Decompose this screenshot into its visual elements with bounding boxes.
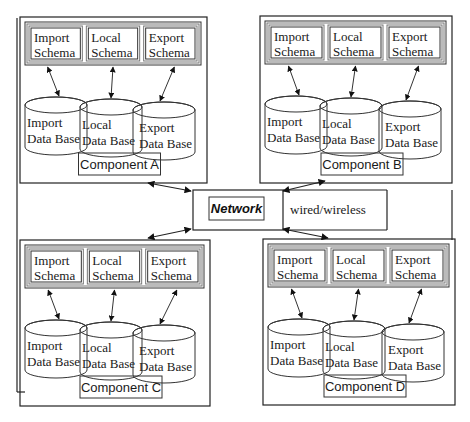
database-local: LocalData Base [320, 98, 382, 156]
network-label: Network [211, 201, 263, 216]
schema-import: ImportSchema [272, 248, 327, 283]
schema-db-link-arrow [289, 66, 300, 95]
component-a: ImportSchemaLocalSchemaExportSchemaImpor… [20, 17, 207, 183]
database-label-line1: Local [322, 116, 352, 131]
schema-label-line1: Export [392, 29, 428, 44]
database-local: LocalData Base [323, 321, 385, 379]
schema-label-line1: Import [34, 253, 70, 268]
schema-import: ImportSchema [29, 26, 82, 61]
schema-export: ExportSchema [146, 249, 200, 284]
database-cylinder-top [320, 98, 382, 114]
schema-local: LocalSchema [328, 25, 383, 60]
database-import: ImportData Base [25, 320, 87, 378]
schema-label-line1: Import [277, 252, 313, 267]
component-label: Component A [80, 157, 159, 172]
schema-label-line1: Local [92, 253, 122, 268]
link-component-c [148, 229, 191, 238]
component-label: Component B [322, 157, 402, 172]
federated-database-diagram: ImportSchemaLocalSchemaExportSchemaImpor… [0, 0, 470, 422]
database-import: ImportData Base [265, 96, 327, 154]
schema-db-link-arrow [111, 290, 115, 321]
schema-label-line2: Schema [34, 268, 75, 283]
database-export: ExportData Base [382, 324, 444, 382]
database-label-line1: Local [82, 340, 112, 355]
database-label-line2: Data Base [322, 132, 375, 147]
schema-label-line1: Import [274, 29, 310, 44]
schema-export: ExportSchema [390, 248, 445, 283]
schema-label-line2: Schema [274, 44, 315, 59]
schema-db-link-arrow [351, 66, 356, 97]
component-c: ImportSchemaLocalSchemaExportSchemaImpor… [20, 240, 210, 406]
database-label-line2: Data Base [325, 355, 378, 370]
schema-label-line1: Local [333, 29, 363, 44]
database-import: ImportData Base [268, 319, 330, 377]
component-label: Component D [325, 379, 405, 394]
component-b: ImportSchemaLocalSchemaExportSchemaImpor… [260, 16, 452, 183]
schema-label-line1: Import [34, 30, 70, 45]
schema-label-line2: Schema [91, 45, 132, 60]
schema-db-link-arrow [48, 290, 59, 319]
schema-db-link-arrow [409, 289, 422, 323]
schema-db-link-arrow [160, 67, 174, 101]
component-d: ImportSchemaLocalSchemaExportSchemaImpor… [263, 239, 455, 405]
database-label-line1: Import [267, 114, 303, 129]
database-label-line2: Data Base [385, 135, 438, 150]
schema-label-line2: Schema [151, 268, 192, 283]
database-label-line1: Import [27, 115, 63, 130]
schema-label-line2: Schema [336, 267, 377, 282]
schema-label-line2: Schema [92, 268, 133, 283]
schema-label-line2: Schema [277, 267, 318, 282]
database-label-line2: Data Base [82, 356, 135, 371]
schema-label-line1: Local [91, 30, 121, 45]
schema-db-link-arrow [354, 289, 359, 320]
database-label-line2: Data Base [27, 354, 80, 369]
schema-label-line1: Local [336, 252, 366, 267]
database-label-line2: Data Base [82, 133, 135, 148]
database-export: ExportData Base [379, 101, 441, 159]
schema-db-link-arrow [160, 290, 177, 324]
database-label-line2: Data Base [27, 131, 80, 146]
database-cylinder-top [268, 319, 330, 335]
schema-db-link-arrow [292, 289, 303, 318]
network-node: Network wired/wireless [193, 190, 387, 230]
schema-db-link-arrow [111, 67, 113, 98]
database-cylinder-top [25, 97, 87, 113]
schema-label-line2: Schema [34, 45, 75, 60]
database-cylinder-top [25, 320, 87, 336]
schema-import: ImportSchema [269, 25, 324, 60]
database-label-line2: Data Base [270, 353, 323, 368]
database-label-line1: Import [27, 338, 63, 353]
schema-label-line1: Export [395, 252, 431, 267]
database-label-line1: Export [139, 120, 175, 135]
database-label-line2: Data Base [388, 358, 441, 373]
schema-label-line2: Schema [333, 44, 374, 59]
schema-db-link-arrow [406, 66, 419, 100]
database-label-line1: Export [388, 342, 424, 357]
database-label-line1: Export [385, 119, 421, 134]
schema-db-link-arrow [48, 67, 59, 96]
schema-local: LocalSchema [331, 248, 386, 283]
schema-export: ExportSchema [387, 25, 442, 60]
schema-import: ImportSchema [29, 249, 83, 284]
database-import: ImportData Base [25, 97, 87, 155]
schema-label-line1: Export [151, 253, 187, 268]
schema-export: ExportSchema [144, 26, 197, 61]
database-label-line1: Export [139, 343, 175, 358]
schema-label-line1: Export [149, 30, 185, 45]
link-component-a [148, 183, 191, 191]
database-label-line2: Data Base [267, 130, 320, 145]
database-cylinder-top [323, 321, 385, 337]
database-cylinder-top [382, 324, 444, 340]
schema-label-line2: Schema [149, 45, 190, 60]
component-label: Component C [81, 380, 161, 395]
schema-label-line2: Schema [395, 267, 436, 282]
database-label-line2: Data Base [139, 136, 192, 151]
database-cylinder-top [379, 101, 441, 117]
schema-label-line2: Schema [392, 44, 433, 59]
schema-local: LocalSchema [86, 26, 139, 61]
database-label-line1: Import [270, 337, 306, 352]
database-label-line2: Data Base [139, 359, 192, 374]
connection-type-label: wired/wireless [290, 202, 366, 217]
database-cylinder-top [265, 96, 327, 112]
schema-local: LocalSchema [87, 249, 141, 284]
